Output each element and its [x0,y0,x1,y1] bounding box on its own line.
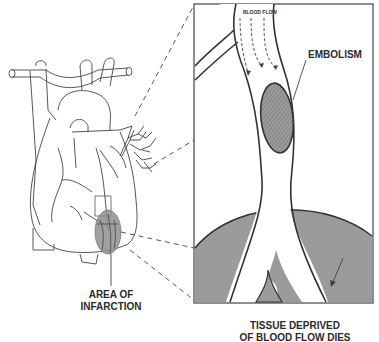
area-of-infarction-line1: AREA OF [76,289,146,301]
area-of-infarction-label: AREA OF INFARCTION [76,289,146,312]
tissue-deprived-label: TISSUE DEPRIVED OF BLOOD FLOW DIES [225,320,365,342]
infarct-area [95,210,121,254]
magnification-lines [121,5,194,300]
aorta [58,91,110,130]
coronary-artery [52,148,63,222]
embolism-label: EMBOLISM [300,49,370,61]
diagram: BLOOD FLOW EMBOLISM AREA OF INFARCTION T… [0,0,379,342]
area-of-infarction-line2: INFARCTION [76,301,146,313]
heart-illustration [9,58,156,264]
tissue-label-line2: OF BLOOD FLOW DIES [225,332,365,342]
pulmonary-artery [12,68,128,78]
blood-flow-label: BLOOD FLOW [240,10,280,16]
aortic-branch [36,61,46,66]
vena-cava [30,71,40,225]
tissue-label-line1: TISSUE DEPRIVED [225,320,365,332]
